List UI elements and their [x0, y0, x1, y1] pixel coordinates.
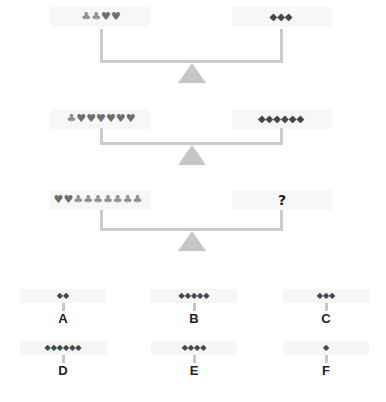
option-diamonds: ◆◆◆◆: [182, 341, 207, 355]
option-diamonds: ◆◆◆◆◆: [179, 289, 210, 303]
diamond-icon: ◆: [266, 109, 274, 129]
club-icon: ♣: [103, 190, 113, 210]
option-pin: [62, 355, 65, 363]
heart-icon: ♥: [54, 190, 64, 210]
club-icon: ♣: [123, 190, 133, 210]
diamond-icon: ◆: [269, 7, 277, 27]
club-icon: ♣: [93, 190, 103, 210]
option-pin: [193, 303, 196, 311]
club-icon: ♣: [113, 190, 123, 210]
option-label[interactable]: D: [58, 363, 67, 378]
option-label[interactable]: A: [58, 311, 67, 326]
option-diamonds: ◆◆: [57, 289, 69, 303]
option-pin: [325, 303, 328, 311]
right-pan-items: ◆◆◆: [269, 7, 292, 27]
club-icon: ♣: [133, 190, 143, 210]
fulcrum-triangle-icon: [178, 231, 206, 251]
heart-icon: ♥: [76, 109, 86, 129]
diamond-icon: ◆: [258, 109, 266, 129]
heart-icon: ♥: [116, 109, 126, 129]
option-label[interactable]: B: [189, 311, 198, 326]
left-pan-items: ♣♥♥♥♥♥♥: [66, 109, 135, 129]
club-icon: ♣: [83, 190, 93, 210]
heart-icon: ♥: [96, 109, 106, 129]
heart-icon: ♥: [126, 109, 136, 129]
club-icon: ♣: [81, 7, 91, 27]
diamond-icon: ◆: [289, 109, 297, 129]
unknown-weight-question-mark: ?: [278, 190, 286, 210]
diamond-icon: ◆: [273, 109, 281, 129]
option-diamonds: ◆: [323, 341, 329, 355]
right-pan-items: ◆◆◆◆◆◆: [258, 109, 304, 129]
heart-icon: ♥: [101, 7, 111, 27]
right-post: [280, 29, 283, 63]
fulcrum-triangle-icon: [178, 63, 206, 83]
left-pan-items: ♣♣♥♥: [81, 7, 121, 27]
heart-icon: ♥: [106, 109, 116, 129]
option-label[interactable]: E: [190, 363, 199, 378]
left-pan-items: ♥♥♣♣♣♣♣♣♣: [54, 190, 143, 210]
club-icon: ♣: [66, 109, 76, 129]
option-pin: [325, 355, 328, 363]
diamond-icon: ◆: [277, 7, 285, 27]
fulcrum-triangle-icon: [178, 145, 206, 165]
diamond-icon: ◆: [285, 7, 293, 27]
option-diamonds: ◆◆◆◆◆◆: [45, 341, 82, 355]
left-post: [100, 29, 103, 63]
diamond-icon: ◆: [281, 109, 289, 129]
option-pin: [193, 355, 196, 363]
option-diamonds: ◆◆◆: [317, 289, 335, 303]
option-label[interactable]: C: [321, 311, 330, 326]
option-label[interactable]: F: [322, 363, 330, 378]
option-pin: [62, 303, 65, 311]
club-icon: ♣: [73, 190, 83, 210]
club-icon: ♣: [91, 7, 101, 27]
heart-icon: ♥: [63, 190, 73, 210]
heart-icon: ♥: [86, 109, 96, 129]
diamond-icon: ◆: [296, 109, 304, 129]
heart-icon: ♥: [111, 7, 121, 27]
